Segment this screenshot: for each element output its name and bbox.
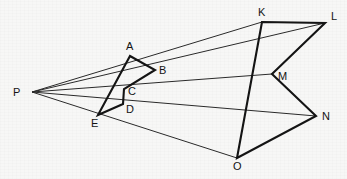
ray-P-C-M <box>32 74 272 92</box>
geometry-figure: P A B C D E K L M N O <box>0 0 347 179</box>
vertex-label-B: B <box>159 64 166 76</box>
ray-P-A-K <box>32 22 262 92</box>
vertex-label-A: A <box>126 40 134 52</box>
vertex-label-C: C <box>128 85 136 97</box>
vertex-label-K: K <box>258 6 266 18</box>
vertex-label-M: M <box>278 70 287 82</box>
ray-P-E-O <box>32 92 237 158</box>
vertex-label-D: D <box>126 103 134 115</box>
vertex-label-L: L <box>331 10 337 22</box>
large-polygon-KLMNO <box>237 22 325 158</box>
vertex-label-E: E <box>91 117 98 129</box>
projection-ray-group <box>32 22 325 158</box>
vertex-label-N: N <box>322 110 330 122</box>
vertex-label-P: P <box>13 86 20 98</box>
diagram-canvas: P A B C D E K L M N O <box>0 0 347 179</box>
ray-P-D-N <box>32 92 316 116</box>
vertex-label-O: O <box>233 160 242 172</box>
